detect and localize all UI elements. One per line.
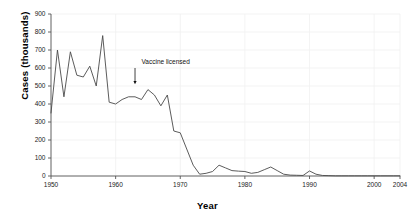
y-tick-label: 400 bbox=[35, 100, 46, 107]
y-tick-label: 700 bbox=[35, 46, 46, 53]
chart-plot-area: 0100200300400500600700800900195019601970… bbox=[0, 0, 415, 220]
x-tick-label: 2004 bbox=[393, 181, 408, 188]
x-tick-label: 1970 bbox=[173, 181, 188, 188]
axis-tick-labels: 0100200300400500600700800900195019601970… bbox=[35, 10, 408, 188]
y-tick-label: 800 bbox=[35, 28, 46, 35]
annotation-arrow-head bbox=[133, 81, 136, 84]
y-tick-label: 300 bbox=[35, 118, 46, 125]
measles-cases-chart: 0100200300400500600700800900195019601970… bbox=[0, 0, 415, 220]
x-axis-title: Year bbox=[0, 200, 415, 211]
y-tick-label: 200 bbox=[35, 136, 46, 143]
y-tick-label: 0 bbox=[42, 172, 46, 179]
x-tick-label: 1980 bbox=[238, 181, 253, 188]
x-tick-label: 2000 bbox=[367, 181, 382, 188]
y-tick-label: 500 bbox=[35, 82, 46, 89]
annotation-label: Vaccine licensed bbox=[141, 58, 190, 65]
axis-ticks bbox=[48, 14, 400, 179]
y-tick-label: 600 bbox=[35, 64, 46, 71]
vaccine-licensed-annotation: Vaccine licensed bbox=[133, 58, 190, 84]
y-tick-label: 100 bbox=[35, 154, 46, 161]
y-axis-title: Cases (thousands) bbox=[19, 0, 30, 116]
data-series bbox=[51, 36, 400, 176]
x-tick-label: 1990 bbox=[302, 181, 317, 188]
x-tick-label: 1950 bbox=[44, 181, 59, 188]
x-tick-label: 1960 bbox=[108, 181, 123, 188]
series-line-measles-cases bbox=[51, 36, 400, 176]
y-tick-label: 900 bbox=[35, 10, 46, 17]
